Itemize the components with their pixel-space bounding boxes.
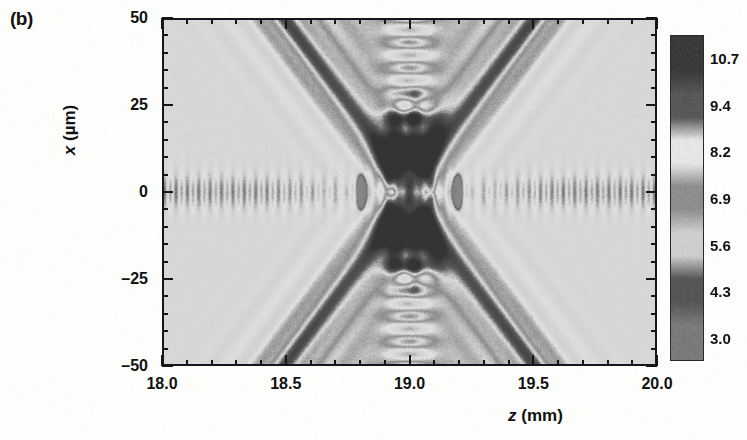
y-axis-minor-tick bbox=[162, 330, 168, 332]
y-axis-major-tick bbox=[162, 191, 173, 193]
y-axis-tick-label: 25 bbox=[0, 96, 148, 114]
x-axis-minor-tick bbox=[508, 360, 510, 366]
y-axis-minor-tick-right bbox=[651, 313, 657, 315]
x-axis-minor-tick bbox=[334, 360, 336, 366]
x-axis-minor-tick bbox=[235, 360, 237, 366]
y-axis-minor-tick-right bbox=[651, 174, 657, 176]
y-axis-minor-tick bbox=[162, 261, 168, 263]
colorbar-tick-label: 9.4 bbox=[710, 96, 731, 113]
y-axis-minor-tick-right bbox=[651, 208, 657, 210]
x-axis-major-tick-top bbox=[532, 18, 534, 29]
y-axis-minor-tick bbox=[162, 243, 168, 245]
y-axis-minor-tick-right bbox=[651, 69, 657, 71]
colorbar-tick-label: 4.3 bbox=[710, 283, 731, 300]
y-axis-major-tick-right bbox=[646, 17, 657, 19]
x-axis-minor-tick bbox=[260, 360, 262, 366]
x-axis-minor-tick-top bbox=[384, 18, 386, 24]
x-axis-tick-label: 19.5 bbox=[518, 375, 549, 393]
x-axis-minor-tick-top bbox=[483, 18, 485, 24]
x-axis-tick-label: 18.5 bbox=[270, 375, 301, 393]
y-axis-minor-tick bbox=[162, 139, 168, 141]
y-axis-tick-label: 50 bbox=[0, 9, 148, 27]
x-axis-major-tick bbox=[532, 355, 534, 366]
y-axis-tick-label: –25 bbox=[0, 270, 148, 288]
x-axis-minor-tick bbox=[458, 360, 460, 366]
y-axis-minor-tick-right bbox=[651, 156, 657, 158]
colorbar-tick-label: 3.0 bbox=[710, 329, 731, 346]
x-axis-major-tick bbox=[285, 355, 287, 366]
y-axis-minor-tick-right bbox=[651, 243, 657, 245]
y-axis-minor-tick-right bbox=[651, 348, 657, 350]
x-axis-minor-tick-top bbox=[260, 18, 262, 24]
x-axis-major-tick-top bbox=[161, 18, 163, 29]
y-axis-minor-tick bbox=[162, 208, 168, 210]
x-axis-minor-tick bbox=[631, 360, 633, 366]
x-axis-minor-tick bbox=[310, 360, 312, 366]
x-axis-minor-tick-top bbox=[359, 18, 361, 24]
y-axis-major-tick-right bbox=[646, 278, 657, 280]
y-axis-minor-tick-right bbox=[651, 139, 657, 141]
y-axis-minor-tick bbox=[162, 69, 168, 71]
x-axis-major-tick-top bbox=[656, 18, 658, 29]
y-axis-tick-label: 0 bbox=[0, 183, 148, 201]
colorbar bbox=[670, 35, 704, 361]
plot-area bbox=[162, 18, 657, 366]
y-axis-minor-tick bbox=[162, 226, 168, 228]
y-axis-minor-tick-right bbox=[651, 52, 657, 54]
y-axis-minor-tick bbox=[162, 348, 168, 350]
x-axis-title: z (mm) bbox=[508, 406, 563, 426]
x-axis-minor-tick bbox=[211, 360, 213, 366]
y-axis-minor-tick bbox=[162, 313, 168, 315]
x-axis-minor-tick-top bbox=[334, 18, 336, 24]
colorbar-gradient bbox=[670, 35, 704, 361]
x-axis-minor-tick-top bbox=[582, 18, 584, 24]
x-axis-minor-tick-top bbox=[235, 18, 237, 24]
y-axis-title-symbol: x bbox=[60, 146, 79, 155]
x-axis-tick-label: 20.0 bbox=[641, 375, 672, 393]
x-axis-minor-tick-top bbox=[186, 18, 188, 24]
x-axis-major-tick-top bbox=[409, 18, 411, 29]
y-axis-minor-tick bbox=[162, 295, 168, 297]
y-axis-minor-tick bbox=[162, 87, 168, 89]
x-axis-minor-tick bbox=[582, 360, 584, 366]
y-axis-tick-label: –50 bbox=[0, 357, 148, 375]
x-axis-major-tick bbox=[409, 355, 411, 366]
y-axis-major-tick bbox=[162, 365, 173, 367]
y-axis-minor-tick-right bbox=[651, 261, 657, 263]
x-axis-minor-tick-top bbox=[631, 18, 633, 24]
x-axis-minor-tick-top bbox=[433, 18, 435, 24]
x-axis-tick-label: 19.0 bbox=[394, 375, 425, 393]
y-axis-minor-tick-right bbox=[651, 87, 657, 89]
x-axis-minor-tick bbox=[433, 360, 435, 366]
y-axis-minor-tick-right bbox=[651, 34, 657, 36]
y-axis-minor-tick bbox=[162, 121, 168, 123]
x-axis-minor-tick bbox=[186, 360, 188, 366]
x-axis-title-unit: (mm) bbox=[521, 406, 563, 425]
y-axis-major-tick bbox=[162, 104, 173, 106]
y-axis-major-tick bbox=[162, 278, 173, 280]
y-axis-major-tick-right bbox=[646, 365, 657, 367]
x-axis-minor-tick-top bbox=[310, 18, 312, 24]
y-axis-minor-tick-right bbox=[651, 330, 657, 332]
x-axis-major-tick-top bbox=[285, 18, 287, 29]
y-axis-minor-tick-right bbox=[651, 226, 657, 228]
y-axis-major-tick-right bbox=[646, 191, 657, 193]
x-axis-minor-tick-top bbox=[557, 18, 559, 24]
colorbar-tick-label: 10.7 bbox=[710, 50, 739, 67]
y-axis-major-tick-right bbox=[646, 104, 657, 106]
x-axis-title-symbol: z bbox=[508, 406, 517, 425]
x-axis-minor-tick-top bbox=[211, 18, 213, 24]
y-axis-minor-tick bbox=[162, 156, 168, 158]
y-axis-minor-tick bbox=[162, 52, 168, 54]
colorbar-tick-label: 8.2 bbox=[710, 143, 731, 160]
y-axis-minor-tick-right bbox=[651, 295, 657, 297]
x-axis-tick-label: 18.0 bbox=[146, 375, 177, 393]
x-axis-minor-tick-top bbox=[508, 18, 510, 24]
intensity-heatmap bbox=[164, 20, 655, 364]
y-axis-minor-tick bbox=[162, 34, 168, 36]
colorbar-tick-label: 6.9 bbox=[710, 190, 731, 207]
x-axis-minor-tick bbox=[607, 360, 609, 366]
x-axis-minor-tick bbox=[359, 360, 361, 366]
x-axis-minor-tick bbox=[483, 360, 485, 366]
x-axis-minor-tick bbox=[384, 360, 386, 366]
